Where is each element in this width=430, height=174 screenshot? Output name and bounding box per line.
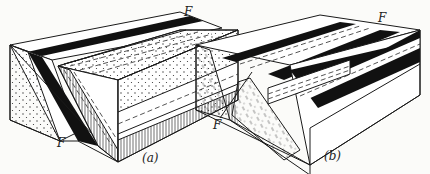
panel-b-caption: (b) <box>324 150 341 162</box>
panel-a-fault-label-bottom: F <box>57 137 65 149</box>
panel-a-caption: (a) <box>142 152 159 164</box>
panel-b-fault-label-top: F <box>378 12 386 24</box>
panel-b-fault-label-bottom: F <box>213 119 221 131</box>
panel-a-fault-label-top: F <box>184 6 192 18</box>
